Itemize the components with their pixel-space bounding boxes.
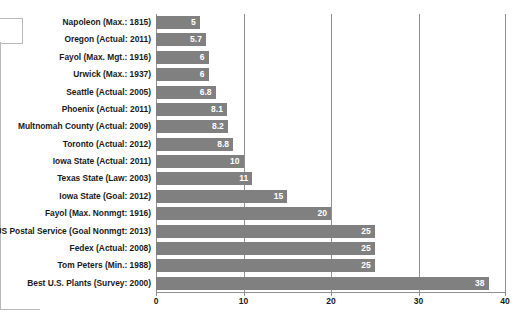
category-label: Texas State (Law: 2003) <box>0 171 151 186</box>
category-label: Urwick (Max.: 1937) <box>0 67 151 82</box>
bar-row: Napoleon (Max.: 1815)5 <box>156 14 506 31</box>
category-label: Best U.S. Plants (Survey: 2000) <box>0 276 151 291</box>
bar-chart: Napoleon (Max.: 1815)5Oregon (Actual: 20… <box>0 0 519 332</box>
x-tick-label-0: 0 <box>136 296 176 306</box>
bar-value-label: 5 <box>156 16 200 29</box>
bar-row: Best U.S. Plants (Survey: 2000)38 <box>156 275 506 292</box>
bar-row: Phoenix (Actual: 2011)8.1 <box>156 101 506 118</box>
plot-area: Napoleon (Max.: 1815)5Oregon (Actual: 20… <box>156 14 506 292</box>
category-label: US Postal Service (Goal Nonmgt: 2013) <box>0 224 151 239</box>
bar-value-label: 6 <box>156 68 209 81</box>
bar-value-label: 20 <box>156 207 331 220</box>
bar-value-label: 6 <box>156 51 209 64</box>
category-label: Iowa State (Goal: 2012) <box>0 189 151 204</box>
x-tick-label-30: 30 <box>399 296 439 306</box>
category-label: Seattle (Actual: 2005) <box>0 85 151 100</box>
bar-row: Fedex (Actual: 2008)25 <box>156 240 506 257</box>
x-tick-label-10: 10 <box>224 296 264 306</box>
bar-value-label: 6.8 <box>156 86 216 99</box>
bar-value-label: 10 <box>156 155 244 168</box>
bar-row: Fayol (Max. Mgt.: 1916)6 <box>156 49 506 66</box>
chart-page: Napoleon (Max.: 1815)5Oregon (Actual: 20… <box>0 0 519 332</box>
bar-value-label: 25 <box>156 259 375 272</box>
category-label: Tom Peters (Min.: 1988) <box>0 258 151 273</box>
bar-row: Texas State (Law: 2003)11 <box>156 170 506 187</box>
bar-row: Tom Peters (Min.: 1988)25 <box>156 257 506 274</box>
category-label: Multnomah County (Actual: 2009) <box>0 119 151 134</box>
category-label: Oregon (Actual: 2011) <box>0 32 151 47</box>
bar-rows: Napoleon (Max.: 1815)5Oregon (Actual: 20… <box>156 14 506 292</box>
bar-value-label: 15 <box>156 190 287 203</box>
bar-value-label: 8.8 <box>156 138 233 151</box>
x-tick-label-20: 20 <box>311 296 351 306</box>
bar-row: Iowa State (Actual: 2011)10 <box>156 153 506 170</box>
bar-row: Multnomah County (Actual: 2009)8.2 <box>156 118 506 135</box>
category-label: Iowa State (Actual: 2011) <box>0 154 151 169</box>
category-label: Napoleon (Max.: 1815) <box>0 15 151 30</box>
bar-value-label: 25 <box>156 242 375 255</box>
bar-row: Toronto (Actual: 2012)8.8 <box>156 136 506 153</box>
bar-value-label: 8.1 <box>156 103 227 116</box>
x-tick-label-40: 40 <box>485 296 519 306</box>
bar-row: US Postal Service (Goal Nonmgt: 2013)25 <box>156 223 506 240</box>
bar-value-label: 5.7 <box>156 33 206 46</box>
category-label: Fayol (Max. Nonmgt: 1916) <box>0 206 151 221</box>
bar-value-label: 8.2 <box>156 120 228 133</box>
category-label: Phoenix (Actual: 2011) <box>0 102 151 117</box>
bar-row: Fayol (Max. Nonmgt: 1916)20 <box>156 205 506 222</box>
category-label: Fayol (Max. Mgt.: 1916) <box>0 50 151 65</box>
bar-row: Urwick (Max.: 1937)6 <box>156 66 506 83</box>
bar-value-label: 38 <box>156 277 489 290</box>
bar-value-label: 25 <box>156 225 375 238</box>
bar-row: Iowa State (Goal: 2012)15 <box>156 188 506 205</box>
bar-row: Oregon (Actual: 2011)5.7 <box>156 31 506 48</box>
category-label: Toronto (Actual: 2012) <box>0 137 151 152</box>
bar-row: Seattle (Actual: 2005)6.8 <box>156 84 506 101</box>
category-label: Fedex (Actual: 2008) <box>0 241 151 256</box>
bar-value-label: 11 <box>156 172 252 185</box>
